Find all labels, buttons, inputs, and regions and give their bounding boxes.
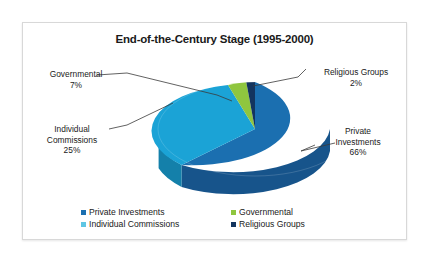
legend-swatch-governmental bbox=[231, 210, 236, 215]
data-label-religious-groups: Religious Groups 2% bbox=[308, 67, 404, 88]
legend-item-private-investments[interactable]: Private Investments bbox=[81, 206, 231, 218]
data-label-private-value: 66% bbox=[315, 147, 401, 158]
legend-label-religious-groups: Religious Groups bbox=[239, 219, 305, 230]
legend-item-religious-groups[interactable]: Religious Groups bbox=[231, 218, 371, 230]
legend-swatch-individual-commissions bbox=[81, 222, 86, 227]
data-label-governmental-value: 7% bbox=[33, 80, 119, 91]
data-label-individual-name-line2: Commissions bbox=[29, 135, 115, 146]
data-label-individual-value: 25% bbox=[29, 145, 115, 156]
legend-label-private-investments: Private Investments bbox=[89, 207, 164, 218]
legend-swatch-religious-groups bbox=[231, 222, 236, 227]
legend-swatch-private-investments bbox=[81, 210, 86, 215]
data-label-private-name-line1: Private bbox=[315, 126, 401, 137]
data-label-private-investments: Private Investments 66% bbox=[315, 126, 401, 158]
legend-item-governmental[interactable]: Governmental bbox=[231, 206, 371, 218]
legend-label-individual-commissions: Individual Commissions bbox=[89, 219, 179, 230]
pie-plot-area: Governmental 7% Religious Groups 2% Indi… bbox=[23, 23, 408, 241]
chart-container: End-of-the-Century Stage (1995-2000) bbox=[22, 22, 407, 240]
data-label-governmental-name: Governmental bbox=[33, 69, 119, 80]
legend-label-governmental: Governmental bbox=[239, 207, 293, 218]
data-label-religious-value: 2% bbox=[308, 78, 404, 89]
legend-item-individual-commissions[interactable]: Individual Commissions bbox=[81, 218, 231, 230]
data-label-individual-name-line1: Individual bbox=[29, 124, 115, 135]
chart-legend: Private Investments Governmental Individ… bbox=[81, 206, 371, 230]
data-label-governmental: Governmental 7% bbox=[33, 69, 119, 90]
data-label-private-name-line2: Investments bbox=[315, 137, 401, 148]
data-label-individual-commissions: Individual Commissions 25% bbox=[29, 124, 115, 156]
data-label-religious-name: Religious Groups bbox=[308, 67, 404, 78]
